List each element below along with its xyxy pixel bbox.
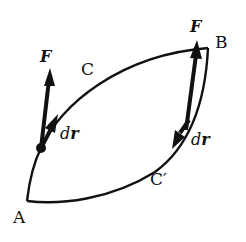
- force-label-left: F: [40, 49, 51, 65]
- path-c-prime-label: C′: [150, 171, 167, 188]
- displacement-label-right: dr: [191, 132, 210, 148]
- d-symbol: d: [191, 130, 201, 149]
- point-b-label: B: [215, 34, 228, 51]
- point-a-label: A: [13, 209, 25, 226]
- r-symbol: r: [201, 130, 209, 149]
- r-symbol: r: [70, 124, 78, 143]
- force-label-right: F: [190, 19, 201, 35]
- d-symbol: d: [60, 124, 70, 143]
- point-dot: [36, 143, 46, 153]
- force-arrowhead-left: [44, 68, 55, 86]
- displacement-arrowhead-left: [45, 114, 58, 133]
- diagram-canvas: [0, 0, 246, 242]
- path-c-label: C: [81, 61, 94, 78]
- displacement-label-left: dr: [60, 126, 79, 142]
